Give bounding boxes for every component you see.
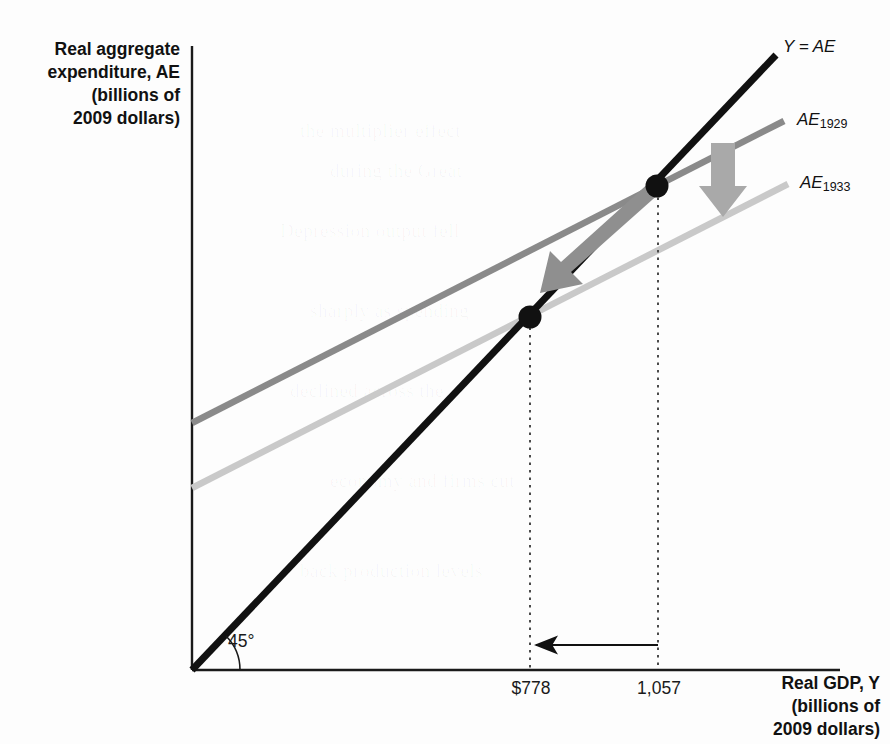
ae-1933-line — [192, 184, 788, 488]
equilibrium-dot-1933 — [519, 306, 542, 329]
series-label-ae-1933: AE1933 — [800, 173, 851, 193]
series-label-ae-1929-prefix: AE — [797, 110, 820, 129]
series-label-ae-1933-prefix: AE — [800, 173, 823, 192]
ae-1929-line — [192, 121, 784, 423]
angle-label-45: 45° — [228, 631, 254, 652]
series-label-identity: Y = AE — [783, 37, 835, 57]
identity-line-45deg — [192, 55, 776, 670]
x-tick-label-1057: 1,057 — [614, 678, 704, 699]
series-label-ae-1933-subscript: 1933 — [823, 180, 851, 194]
series-label-ae-1929: AE1929 — [797, 110, 848, 130]
x-tick-label-778: $778 — [486, 678, 576, 699]
y-axis-title: Real aggregate expenditure, AE (billions… — [10, 38, 180, 130]
x-axis-title: Real GDP, Y (billions of 2009 dollars) — [690, 672, 880, 741]
chart-root: the multiplier effect during the Great D… — [0, 0, 890, 744]
series-label-ae-1929-subscript: 1929 — [820, 117, 848, 131]
equilibrium-dot-1929 — [646, 175, 669, 198]
